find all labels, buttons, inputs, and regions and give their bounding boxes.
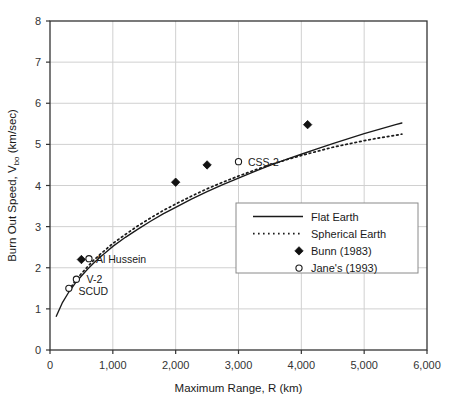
x-axis-tick-label: 0: [47, 359, 53, 371]
point-annotation: Al Hussein: [96, 253, 146, 265]
point-annotation: CSS-2: [248, 156, 279, 168]
y-axis-tick-label: 2: [35, 262, 41, 274]
point-annotation: SCUD: [78, 285, 108, 297]
x-axis-tick-label: 5,000: [350, 359, 378, 371]
burn-out-speed-vs-range-chart: Al HusseinV-2SCUDCSS-2 01234567801,0002,…: [0, 0, 457, 413]
legend-item-label: Jane's (1993): [311, 262, 377, 274]
y-axis-tick-label: 5: [35, 138, 41, 150]
x-axis-tick-label: 2,000: [162, 359, 190, 371]
x-axis-tick-label: 4,000: [288, 359, 316, 371]
legend-item-label: Bunn (1983): [311, 245, 372, 257]
x-axis-title: Maximum Range, R (km): [175, 382, 303, 394]
legend-layer[interactable]: Flat EarthSpherical EarthBunn (1983)Jane…: [236, 203, 418, 274]
y-axis-tick-label: 4: [35, 180, 41, 192]
y-axis-tick-label: 1: [35, 303, 41, 315]
x-axis-tick-label: 1,000: [99, 359, 127, 371]
legend-item-label: Flat Earth: [311, 211, 359, 223]
y-axis-tick-label: 6: [35, 97, 41, 109]
point-annotation: V-2: [87, 273, 103, 285]
data-marker-janes: [73, 276, 79, 282]
y-axis-tick-label: 8: [35, 15, 41, 27]
x-axis-tick-label: 6,000: [413, 359, 441, 371]
chart-figure: Al HusseinV-2SCUDCSS-2 01234567801,0002,…: [0, 0, 457, 413]
y-axis-tick-label: 0: [35, 344, 41, 356]
data-marker-janes: [66, 285, 72, 291]
x-axis-tick-label: 3,000: [225, 359, 253, 371]
y-axis-tick-label: 3: [35, 221, 41, 233]
data-marker-janes: [86, 256, 92, 262]
legend-item-label: Spherical Earth: [311, 228, 386, 240]
legend-open-circle-icon: [296, 265, 302, 271]
data-marker-janes: [235, 159, 241, 165]
y-axis-tick-label: 7: [35, 56, 41, 68]
